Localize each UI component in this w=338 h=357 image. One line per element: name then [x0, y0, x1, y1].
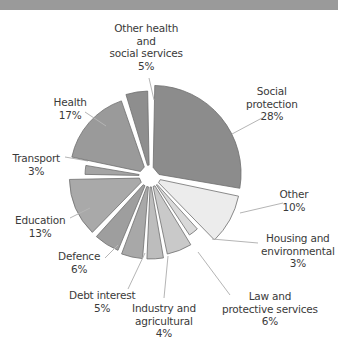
slice-label: Industry and agricultural 4%: [132, 302, 196, 340]
leader-line: [198, 252, 230, 295]
leader-line: [128, 253, 145, 289]
slice-label: Debt interest 5%: [69, 289, 135, 314]
slice-label: Other 10%: [280, 188, 309, 213]
slice-label: Defence 6%: [58, 250, 100, 275]
slice-label: Education 13%: [15, 214, 65, 239]
pie-slice-social-protection: [153, 85, 241, 188]
slice-label: Law and protective services 6%: [222, 290, 318, 328]
slice-label: Health 17%: [54, 96, 87, 121]
leader-line: [240, 203, 283, 213]
leader-line: [164, 256, 168, 298]
leader-line: [149, 78, 154, 100]
slice-label: Housing and environmental 3%: [261, 232, 335, 270]
leader-line: [212, 239, 258, 243]
slice-label: Social protection 28%: [246, 85, 298, 123]
slice-label: Transport 3%: [13, 152, 60, 177]
slice-label: Other health and social services 5%: [110, 22, 183, 72]
